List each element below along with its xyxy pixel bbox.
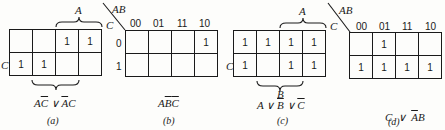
- cell: [149, 31, 172, 54]
- cell: 1: [33, 53, 56, 76]
- cell: [126, 31, 149, 54]
- kmap-b: AB C 00 01 11 10 0 1 1 ABC (b): [100, 0, 222, 130]
- cell: 1: [373, 56, 396, 79]
- col-header: 11: [177, 18, 187, 29]
- caption-d: (d): [388, 116, 400, 127]
- kmap-grid-c: 1111 111: [233, 30, 326, 77]
- cell: 1: [79, 30, 102, 53]
- cell: 1: [10, 53, 33, 76]
- kmap-grid-a: 11 11: [9, 29, 102, 76]
- expression-b: ABC: [158, 97, 179, 109]
- cell: [149, 54, 172, 77]
- cell: 1: [303, 54, 326, 77]
- cell: [350, 33, 373, 56]
- col-header: 10: [199, 18, 210, 29]
- expression-a: AC ∨ AC: [34, 97, 75, 110]
- expression-c: A ∨ B ∨ C: [257, 99, 305, 112]
- cell: [79, 53, 102, 76]
- cell: 1: [257, 31, 280, 54]
- kmap-d: AB C 00 01 11 10 1 1111 C ∨ AB (d): [325, 0, 445, 130]
- corner-label-AB: AB: [339, 4, 352, 16]
- cell: [172, 54, 195, 77]
- cell: [419, 33, 442, 56]
- corner-label-AB: AB: [112, 3, 125, 15]
- kmap-grid-d: 1 1111: [349, 32, 442, 79]
- cell: [396, 33, 419, 56]
- cell: 1: [280, 54, 303, 77]
- row-header: 0: [116, 38, 122, 49]
- cell: [257, 54, 280, 77]
- cell: [33, 30, 56, 53]
- cell: 1: [419, 56, 442, 79]
- kmap-a: A C 11 11 AC ∨ AC (a): [0, 0, 110, 130]
- cell: 1: [303, 31, 326, 54]
- row-header: 1: [116, 61, 122, 72]
- cell: 1: [350, 56, 373, 79]
- label-A: A: [75, 4, 82, 16]
- col-header: 10: [425, 21, 436, 32]
- cell: [56, 53, 79, 76]
- col-header: 01: [153, 18, 164, 29]
- label-C: C: [1, 59, 8, 71]
- cell: [172, 31, 195, 54]
- cell: 1: [56, 30, 79, 53]
- corner-label-C: C: [106, 19, 113, 31]
- cell: 1: [234, 31, 257, 54]
- caption-a: (a): [47, 115, 59, 126]
- kmap-c: A C B 1111 111 A ∨ B ∨ C (c): [220, 0, 330, 130]
- caption-c: (c): [277, 115, 288, 126]
- col-header: 00: [356, 21, 367, 32]
- caption-b: (b): [163, 115, 175, 126]
- cell: 1: [195, 31, 218, 54]
- cell: 1: [396, 56, 419, 79]
- cell: [195, 54, 218, 77]
- col-header: 01: [379, 21, 390, 32]
- cell: 1: [280, 31, 303, 54]
- col-header: 11: [402, 21, 412, 32]
- cell: [126, 54, 149, 77]
- kmap-grid-b: 1: [125, 30, 218, 77]
- cell: 1: [373, 33, 396, 56]
- cell: 1: [234, 54, 257, 77]
- label-A: A: [299, 5, 306, 17]
- cell: [10, 30, 33, 53]
- col-header: 00: [130, 18, 141, 29]
- corner-label-C: C: [330, 20, 337, 32]
